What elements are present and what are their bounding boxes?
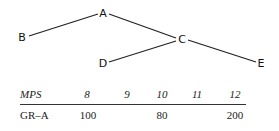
cell-12: 200 [227,110,244,121]
header-col-9: 9 [124,89,130,100]
header-col-11: 11 [192,89,202,100]
header-col-8: 8 [84,89,90,100]
cell-10: 80 [157,110,168,121]
mps-table: MPS 8 9 10 11 12 GR–A 100 80 200 [0,0,279,131]
row-label: GR–A [20,110,49,121]
cell-8: 100 [80,110,97,121]
header-col-12: 12 [230,89,241,100]
header-label: MPS [20,89,41,100]
table-divider [20,104,246,105]
header-col-10: 10 [157,89,168,100]
